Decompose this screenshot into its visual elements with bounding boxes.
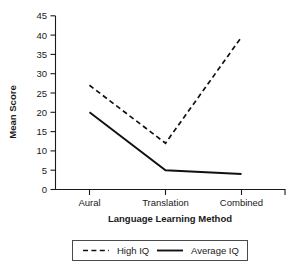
y-tick-label: 30: [36, 68, 47, 79]
x-axis-category-labels: Aural Translation Combined: [78, 197, 263, 208]
x-axis-title: Language Learning Method: [108, 213, 232, 224]
y-tick-label: 10: [36, 145, 47, 156]
x-category-label-aural: Aural: [78, 197, 100, 208]
y-tick-label: 40: [36, 30, 47, 41]
y-tick-label: 35: [36, 49, 47, 60]
legend-label-high-iq: High IQ: [117, 245, 149, 256]
series-line-high-iq: [90, 37, 242, 143]
chart-legend: High IQ Average IQ: [73, 241, 248, 261]
x-category-label-translation: Translation: [142, 197, 189, 208]
line-chart: 0 5 10 15 20 25 30 35 40 45 Aural Transl…: [0, 0, 297, 277]
y-tick-label: 15: [36, 126, 47, 137]
chart-figure: 0 5 10 15 20 25 30 35 40 45 Aural Transl…: [0, 0, 297, 277]
y-axis-ticks: [51, 16, 56, 190]
y-tick-label: 25: [36, 88, 47, 99]
y-tick-label: 5: [42, 165, 47, 176]
y-tick-label: 20: [36, 107, 47, 118]
y-axis-title: Mean Score: [7, 85, 18, 138]
legend-label-average-iq: Average IQ: [191, 245, 239, 256]
y-tick-label: 45: [36, 10, 47, 21]
x-category-label-combined: Combined: [220, 197, 263, 208]
y-tick-label: 0: [42, 184, 47, 195]
x-axis-ticks: [90, 190, 286, 196]
y-axis-tick-labels: 0 5 10 15 20 25 30 35 40 45: [36, 10, 47, 195]
